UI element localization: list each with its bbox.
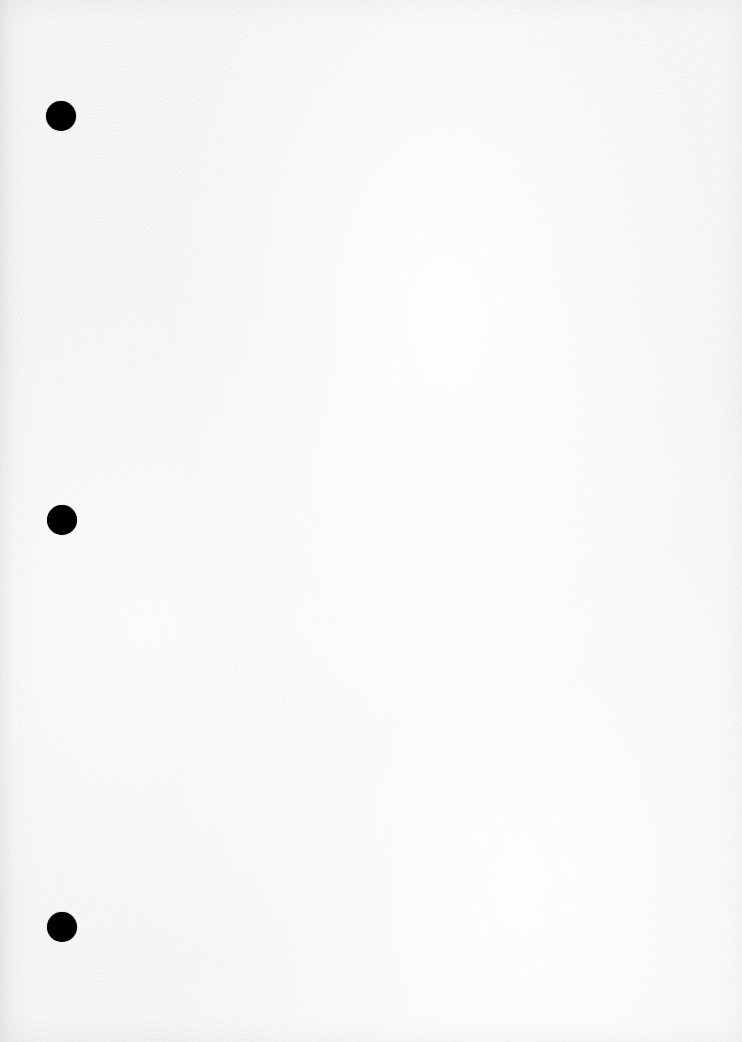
blank-paper-sheet xyxy=(0,0,742,1042)
punch-hole-bottom xyxy=(47,912,77,942)
punch-hole-middle xyxy=(47,505,77,535)
punch-hole-top xyxy=(46,101,76,131)
